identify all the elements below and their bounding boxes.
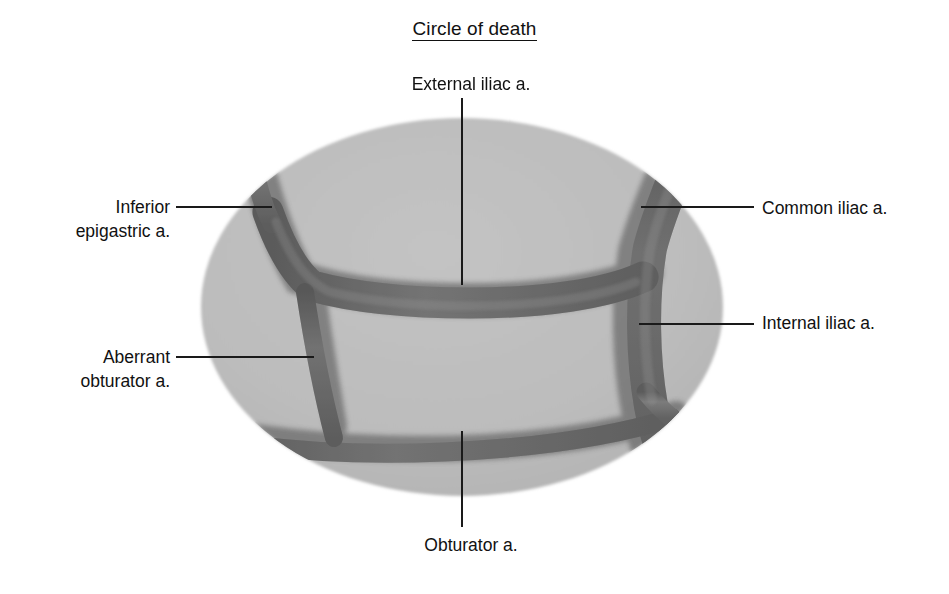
label-inferior-epigastric-artery: Inferior epigastric a. [0, 195, 170, 243]
anatomy-figure: Circle of death External iliac a. Common… [0, 0, 949, 594]
label-aberrant-obturator-artery: Aberrant obturator a. [0, 345, 170, 393]
label-common-iliac-artery: Common iliac a. [762, 196, 949, 220]
label-external-iliac-artery: External iliac a. [331, 72, 611, 96]
figure-title-text: Circle of death [412, 18, 536, 41]
figure-title: Circle of death [0, 18, 949, 40]
label-internal-iliac-artery: Internal iliac a. [762, 311, 949, 335]
label-obturator-artery: Obturator a. [341, 533, 601, 557]
